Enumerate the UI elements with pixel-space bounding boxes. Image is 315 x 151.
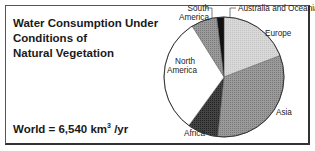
label-north-america-2: America (167, 66, 197, 75)
label-north-america-1: North (175, 57, 195, 66)
label-south-america-2: America (179, 13, 209, 22)
label-asia: Asia (276, 108, 292, 117)
label-africa: Africa (184, 129, 205, 138)
australia-leader-line (230, 8, 236, 18)
pie-chart: South America Australia and Oceania Euro… (0, 0, 315, 151)
label-australia: Australia and Oceania (238, 4, 315, 13)
label-south-america-1: South (188, 4, 210, 13)
label-europe: Europe (265, 29, 292, 38)
